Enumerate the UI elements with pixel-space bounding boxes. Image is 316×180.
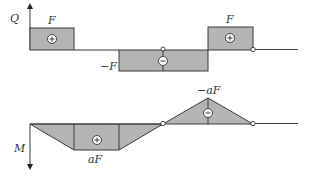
plus-sign-icon	[93, 136, 102, 145]
plus-sign-icon	[48, 35, 57, 44]
shear-axis-label: Q	[10, 12, 19, 25]
moment-label-neg-af: −aF	[197, 84, 221, 97]
diagram-canvas: Q F −F F M a	[0, 0, 316, 180]
shear-label-f2: F	[225, 13, 234, 26]
hinge-marker	[251, 121, 255, 125]
shear-label-f1: F	[47, 14, 56, 27]
moment-axis-label: M	[13, 142, 26, 155]
minus-sign-icon	[159, 57, 168, 66]
shear-diagram: Q F −F F	[10, 6, 298, 73]
shear-label-neg-f: −F	[100, 60, 117, 73]
plus-sign-icon	[226, 34, 235, 43]
moment-label-af: aF	[88, 153, 103, 166]
hinge-marker	[161, 47, 165, 51]
hinge-marker	[161, 121, 165, 125]
minus-sign-icon	[204, 109, 213, 118]
moment-diagram: M aF −aF	[13, 84, 298, 167]
hinge-marker	[251, 47, 255, 51]
